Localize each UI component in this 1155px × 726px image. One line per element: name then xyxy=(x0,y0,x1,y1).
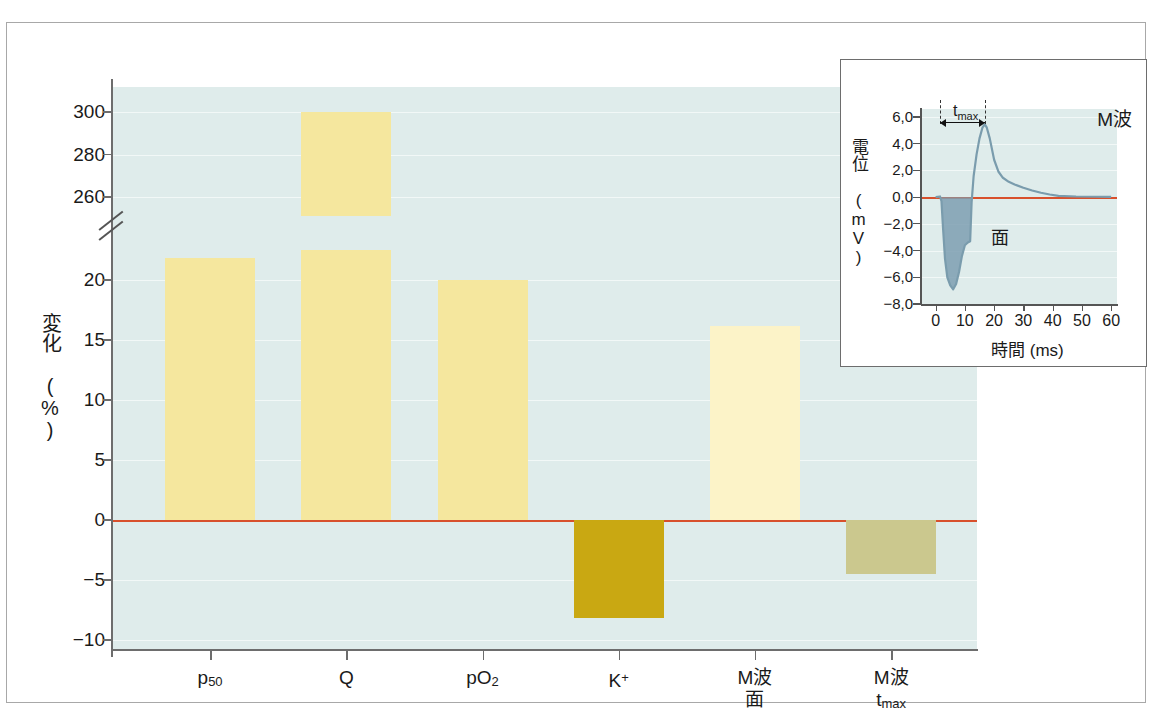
bar[interactable] xyxy=(846,520,936,574)
x-tick-label: pO2 xyxy=(408,667,558,693)
x-tick-label: Q xyxy=(271,667,421,689)
inset-y-tick-label: −2,0 xyxy=(867,216,913,231)
y-tick xyxy=(103,459,113,461)
inset-y-tick xyxy=(913,277,921,278)
x-tick xyxy=(619,649,621,660)
y-axis-line xyxy=(111,79,113,657)
tmax-annotation-label: tmax xyxy=(953,102,978,122)
y-tick xyxy=(103,579,113,581)
y-tick-label: 5 xyxy=(41,450,105,469)
x-axis-line xyxy=(112,649,978,651)
y-tick-label: 300 xyxy=(41,102,105,121)
inset-x-tick xyxy=(1082,304,1083,311)
bar[interactable] xyxy=(710,326,800,520)
y-tick-label: −10 xyxy=(41,630,105,649)
inset-x-tick xyxy=(1111,304,1112,311)
inset-y-tick xyxy=(913,303,921,304)
x-tick xyxy=(891,649,893,660)
x-tick xyxy=(483,649,485,660)
inset-y-tick-label: 4,0 xyxy=(867,136,913,151)
inset-y-tick-label: 6,0 xyxy=(867,109,913,124)
y-axis-title-text: 変化 (%) xyxy=(38,313,62,441)
gridline xyxy=(112,580,977,581)
y-tick-label-group: 30028026020151050−5−10 xyxy=(23,23,105,726)
y-tick xyxy=(103,339,113,341)
inset-x-tick-label: 60 xyxy=(1091,312,1131,330)
tmax-annotation-sub: max xyxy=(957,110,978,122)
area-annotation-label: 面 xyxy=(991,223,1009,249)
x-tick-label: p50 xyxy=(135,667,285,693)
tmax-arrowhead-right xyxy=(979,119,985,127)
inset-x-tick xyxy=(994,304,995,311)
bar[interactable] xyxy=(165,258,255,520)
y-tick-label: 260 xyxy=(41,187,105,206)
inset-y-tick xyxy=(913,116,921,117)
axis-break-icon xyxy=(99,217,133,251)
y-tick xyxy=(103,279,113,281)
y-tick xyxy=(103,111,113,113)
y-tick xyxy=(103,399,113,401)
y-tick xyxy=(103,196,113,198)
inset-y-tick-label: 2,0 xyxy=(867,162,913,177)
inset-x-tick xyxy=(1053,304,1054,311)
inset-y-tick-label: −8,0 xyxy=(867,296,913,311)
x-tick-label: M波面 xyxy=(680,667,830,711)
bar-upper-segment[interactable] xyxy=(301,112,391,216)
tmax-guide-right xyxy=(985,100,987,124)
inset-panel: 6,04,02,00,0−2,0−4,0−6,0−8,0 01020304050… xyxy=(840,59,1147,367)
y-tick xyxy=(103,154,113,156)
bar[interactable] xyxy=(574,520,664,618)
inset-waveform xyxy=(921,109,1117,304)
inset-y-tick xyxy=(913,143,921,144)
inset-y-axis-title: 電位 (mV) xyxy=(847,138,869,272)
inset-y-tick-label: −6,0 xyxy=(867,269,913,284)
inset-y-axis-title-text: 電位 (mV) xyxy=(848,138,868,267)
inset-title: M波 xyxy=(1097,104,1132,131)
inset-x-axis-line xyxy=(921,304,1118,306)
x-tick xyxy=(210,649,212,660)
inset-x-tick xyxy=(1023,304,1024,311)
inset-y-tick-label: −4,0 xyxy=(867,243,913,258)
x-tick xyxy=(755,649,757,660)
y-tick xyxy=(103,639,113,641)
y-tick-label: 0 xyxy=(41,510,105,529)
inset-y-tick xyxy=(913,197,921,198)
tmax-arrowhead-left xyxy=(940,119,946,127)
inset-x-axis-title: 時間 (ms) xyxy=(991,336,1141,361)
x-tick-label: M波tmax xyxy=(816,667,966,715)
x-tick xyxy=(346,649,348,660)
inset-y-tick xyxy=(913,223,921,224)
bar[interactable] xyxy=(438,280,528,520)
bar[interactable] xyxy=(301,250,391,520)
y-tick-label: 20 xyxy=(41,270,105,289)
y-tick xyxy=(103,519,113,521)
inset-y-tick xyxy=(913,170,921,171)
inset-y-tick xyxy=(913,250,921,251)
inset-x-tick xyxy=(965,304,966,311)
inset-x-tick xyxy=(936,304,937,311)
inset-y-tick-label: 0,0 xyxy=(867,189,913,204)
gridline xyxy=(112,640,977,641)
y-axis-title: 変化 (%) xyxy=(37,313,63,446)
y-tick-label: 280 xyxy=(41,145,105,164)
figure-frame: 30028026020151050−5−10 p50QpO2K+M波面M波tma… xyxy=(6,22,1146,703)
y-tick-label: −5 xyxy=(41,570,105,589)
x-tick-label: K+ xyxy=(544,667,694,692)
